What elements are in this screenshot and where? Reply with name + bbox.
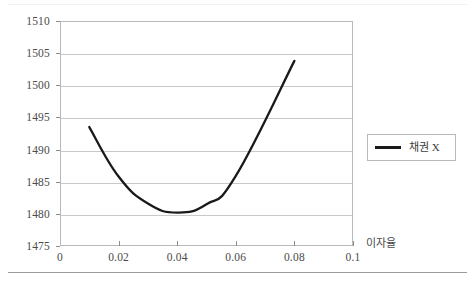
gridline-horizontal bbox=[61, 183, 352, 184]
x-tick-label: 0.04 bbox=[155, 251, 199, 263]
y-tick-label: 1480 bbox=[0, 208, 50, 220]
x-axis-title: 이자율 bbox=[366, 237, 396, 250]
x-tick-label: 0.08 bbox=[272, 251, 316, 263]
y-tick-mark bbox=[56, 246, 60, 247]
x-tick-label: 0.02 bbox=[97, 251, 141, 263]
y-tick-label: 1500 bbox=[0, 79, 50, 91]
x-tick-label: 0.06 bbox=[214, 251, 258, 263]
gridline-horizontal bbox=[61, 151, 352, 152]
y-tick-mark bbox=[56, 53, 60, 54]
x-tick-mark bbox=[177, 241, 178, 246]
x-tick-mark bbox=[294, 241, 295, 246]
gridline-horizontal bbox=[61, 118, 352, 119]
x-tick-mark bbox=[236, 241, 237, 246]
y-tick-label: 1490 bbox=[0, 144, 50, 156]
legend-label: 채권 X bbox=[409, 141, 440, 154]
gridline-horizontal bbox=[61, 215, 352, 216]
chart-legend: 채권 X bbox=[367, 134, 456, 161]
gridline-horizontal bbox=[61, 54, 352, 55]
y-tick-mark bbox=[56, 150, 60, 151]
x-tick-label: 0.1 bbox=[331, 251, 375, 263]
y-tick-mark bbox=[56, 214, 60, 215]
chart-figure: 14751480148514901495150015051510 00.020.… bbox=[0, 0, 475, 290]
x-tick-mark bbox=[353, 241, 354, 246]
y-tick-label: 1505 bbox=[0, 47, 50, 59]
x-tick-mark bbox=[119, 241, 120, 246]
y-tick-mark bbox=[56, 182, 60, 183]
legend-line-swatch bbox=[375, 146, 401, 149]
plot-area bbox=[60, 21, 353, 246]
y-tick-label: 1485 bbox=[0, 176, 50, 188]
x-tick-label: 0 bbox=[38, 251, 82, 263]
page-bottom-rule bbox=[8, 272, 467, 273]
y-tick-mark bbox=[56, 21, 60, 22]
y-tick-label: 1495 bbox=[0, 111, 50, 123]
page-top-rule bbox=[8, 4, 467, 5]
gridline-horizontal bbox=[61, 86, 352, 87]
y-tick-mark bbox=[56, 85, 60, 86]
y-tick-mark bbox=[56, 117, 60, 118]
y-tick-label: 1510 bbox=[0, 15, 50, 27]
